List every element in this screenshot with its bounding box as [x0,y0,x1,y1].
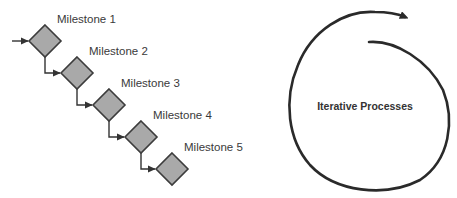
milestone-4-diamond [125,121,157,153]
milestone-2-label: Milestone 2 [89,45,148,57]
milestone-4-label: Milestone 4 [153,109,212,121]
iterative-processes-label: Iterative Processes [317,100,413,112]
milestone-3-label: Milestone 3 [121,77,180,89]
milestone-1-diamond [29,25,61,57]
milestone-5-label: Milestone 5 [184,141,243,153]
milestone-5-diamond [156,153,188,185]
milestone-3-diamond [93,89,125,121]
diagram-graphics [0,0,457,198]
diagram-canvas: Milestone 1 Milestone 2 Milestone 3 Mile… [0,0,457,198]
milestone-2-diamond [61,57,93,89]
milestone-1-label: Milestone 1 [57,13,116,25]
